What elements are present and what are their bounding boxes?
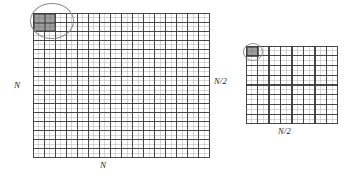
coarse-grid-mesh xyxy=(246,46,338,124)
fine-grid-shaded-block xyxy=(33,13,55,31)
coarse-grid-height-label: N/2 xyxy=(214,77,227,86)
fine-grid-width-label: N xyxy=(100,161,106,170)
figure-root: N N N/2 N/2 xyxy=(0,0,354,183)
coarse-grid-shaded-block xyxy=(246,46,258,56)
coarse-grid-width-label: N/2 xyxy=(278,127,291,136)
fine-grid-lines xyxy=(33,13,210,158)
coarse-grid-lines xyxy=(246,46,338,124)
fine-grid-height-label: N xyxy=(14,81,20,90)
fine-grid-mesh xyxy=(33,13,210,158)
